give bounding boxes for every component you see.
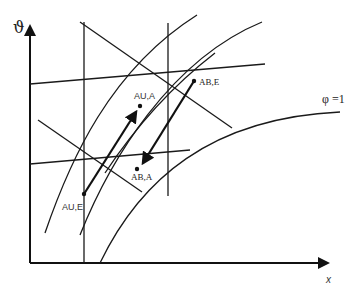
y-axis-arrowhead-icon [24, 24, 36, 36]
label-au-a: AU,A [134, 91, 155, 101]
y-axis-label: ϑ [13, 18, 24, 37]
curve-label-phi: φ =1 [322, 92, 345, 106]
x-axis [30, 257, 330, 269]
point-ab-a [135, 167, 139, 171]
x-axis-arrowhead-icon [318, 257, 330, 269]
curve-1 [45, 15, 197, 233]
point-ab-e [192, 79, 196, 83]
diagonal-line-upper [80, 22, 232, 128]
x-axis-label: x [325, 274, 332, 285]
process-diagram: ϑ x AU,E AU,A AB,E AB,A φ =1 [0, 0, 364, 293]
point-au-a [138, 104, 142, 108]
point-au-e [82, 192, 86, 196]
curve-2 [80, 22, 262, 235]
horizontal-line-top [30, 64, 265, 84]
label-ab-e: AB,E [199, 77, 220, 87]
label-au-e: AU,E [62, 202, 83, 212]
y-axis [24, 24, 36, 263]
label-ab-a: AB,A [131, 172, 153, 182]
curve-3 [105, 53, 215, 173]
